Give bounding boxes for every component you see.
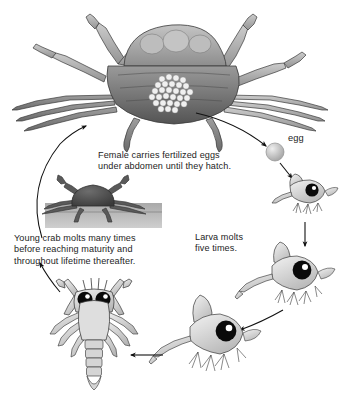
adult-crab-left-legs bbox=[12, 44, 117, 131]
egg-sphere bbox=[266, 143, 284, 161]
carapace-marking-right bbox=[189, 35, 211, 53]
megalopa-abdomen bbox=[85, 340, 103, 390]
zoea-larva-2 bbox=[235, 242, 335, 305]
larva-1-appendages bbox=[293, 203, 322, 214]
zoea-larva-3 bbox=[149, 295, 261, 371]
caption-female-carries-eggs: Female carries fertilized eggs under abd… bbox=[98, 150, 231, 173]
young-crab-scene bbox=[42, 175, 162, 228]
arrow-megalopa-to-young-crab bbox=[40, 263, 60, 292]
caption-young-crab-molts: Young crab molts many times before reach… bbox=[14, 233, 136, 267]
caption-larva-molts: Larva molts five times. bbox=[195, 232, 243, 255]
megalopa-stage bbox=[50, 278, 138, 390]
carapace-marking-center bbox=[163, 30, 189, 52]
carapace-marking-left bbox=[140, 34, 164, 54]
megalopa-body bbox=[78, 301, 109, 341]
arrow-larva2-to-larva3 bbox=[240, 310, 283, 330]
larva-2-tail bbox=[235, 274, 273, 299]
crab-life-cycle-diagram: Female carries fertilized eggs under abd… bbox=[0, 0, 342, 408]
larva-3-tail bbox=[149, 336, 191, 364]
adult-female-crab bbox=[12, 14, 328, 152]
arrow-egg-to-larva bbox=[280, 163, 292, 178]
life-cycle-illustration bbox=[0, 0, 342, 408]
zoea-larva-1 bbox=[272, 174, 338, 214]
seafloor-band bbox=[45, 203, 162, 228]
caption-egg-label: egg bbox=[288, 133, 304, 144]
adult-crab-right-legs bbox=[224, 52, 328, 131]
young-crab-body bbox=[72, 185, 114, 206]
